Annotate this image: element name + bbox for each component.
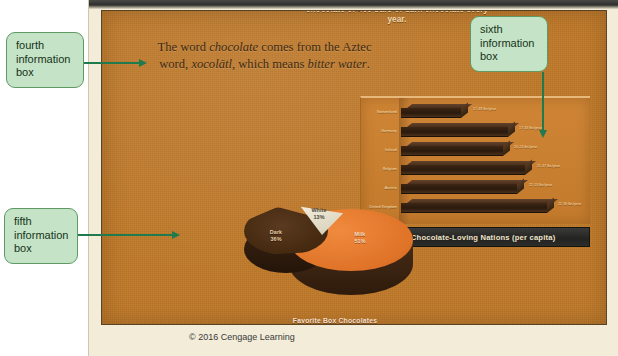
quote-em-chocolate: chocolate [209, 40, 258, 54]
bar-row: Switzerland 17.49 lbs/year [361, 104, 590, 121]
pie-label-milk-name: Milk [342, 231, 378, 238]
callout-fourth-arrow-icon [84, 62, 140, 64]
pie-label-milk: Milk 51% [342, 231, 378, 245]
bar-front-face [401, 184, 517, 194]
bar-value-label: 17.49 lbs/year [473, 107, 496, 112]
quote-part-4: . [367, 57, 370, 71]
bar-row: Belgium 21.37 lbs/year [361, 161, 590, 178]
pie-label-white-value: 13% [302, 214, 336, 221]
pie-label-dark-value: 36% [258, 236, 294, 243]
pie-chart-title: Favorite Box Chocolates [242, 317, 428, 324]
bar-shape [401, 104, 467, 121]
callout-fifth-line-2: information [14, 229, 69, 243]
bar-shape [401, 180, 523, 197]
callout-sixth-line-2: information [480, 37, 539, 51]
pie-label-dark: Dark 36% [258, 229, 294, 243]
callout-fifth-line-3: box [14, 242, 69, 256]
bar-category-label: Switzerland [361, 110, 397, 115]
bar-value-label: 22.36 lbs/year [558, 202, 581, 207]
callout-fourth-line-1: fourth [16, 39, 75, 53]
bar-value-label: 22.13 lbs/year [529, 183, 552, 188]
screenshot-root: chocolate or 400 bars of dark chocolate … [0, 0, 618, 356]
callout-fourth-line-3: box [16, 66, 75, 80]
quote-part-1: The word [157, 40, 209, 54]
quote-em-xocolatl: xocolātl [191, 57, 232, 71]
bar-shape [401, 161, 531, 178]
bar-shape [401, 142, 509, 159]
bar-shape [401, 123, 514, 140]
bar-category-label: Belgium [361, 167, 397, 172]
bar-category-label: Germany [361, 129, 397, 134]
bar-row: Ireland 20.24 lbs/year [361, 142, 590, 159]
callout-sixth-information-box[interactable]: sixth information box [470, 16, 548, 72]
bar-front-face [401, 146, 503, 156]
quote-part-3: , which means [232, 57, 308, 71]
bar-front-face [401, 127, 508, 137]
callout-sixth-line-3: box [480, 50, 539, 64]
callout-fifth-information-box[interactable]: fifth information box [4, 208, 78, 264]
copyright-notice: © 2016 Cengage Learning [189, 332, 295, 342]
top-caption-text: chocolate or 400 bars of dark chocolate … [302, 10, 492, 25]
quote-em-bitter-water: bitter water [308, 57, 367, 71]
bar-value-label: 20.24 lbs/year [514, 145, 537, 150]
callout-fifth-arrow-icon [78, 234, 173, 236]
callout-fourth-information-box[interactable]: fourth information box [6, 32, 84, 88]
bar-category-label: Ireland [361, 148, 397, 153]
callout-sixth-line-1: sixth [480, 23, 539, 37]
page-top-edge [89, 0, 618, 9]
top-caption-line: chocolate or 400 bars of dark chocolate … [306, 10, 488, 24]
bar-front-face [401, 108, 461, 118]
bar-value-label: 21.37 lbs/year [537, 164, 560, 169]
bar-row: Austria 22.13 lbs/year [361, 180, 590, 197]
callout-fourth-line-2: information [16, 53, 75, 67]
pie-chart: Milk 51% Dark 36% White 13% Favorite Box… [242, 199, 428, 319]
chocolate-etymology-quote: The word chocolate comes from the Aztec … [157, 39, 372, 73]
bar-category-label: Austria [361, 186, 397, 191]
pie-label-dark-name: Dark [258, 229, 294, 236]
bar-front-face [401, 165, 525, 175]
bar-row: Germany 17.33 lbs/year [361, 123, 590, 140]
callout-sixth-arrow-icon [542, 72, 544, 130]
pie-label-milk-value: 51% [342, 238, 378, 245]
pie-label-white: White 13% [302, 207, 336, 221]
pie-label-white-name: White [302, 207, 336, 214]
callout-fifth-line-1: fifth [14, 215, 69, 229]
